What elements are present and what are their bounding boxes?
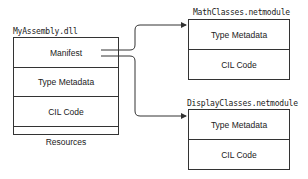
connector-arrows [0, 0, 308, 179]
arrow-to-math-module [101, 25, 186, 50]
arrow-to-display-module [101, 56, 186, 116]
